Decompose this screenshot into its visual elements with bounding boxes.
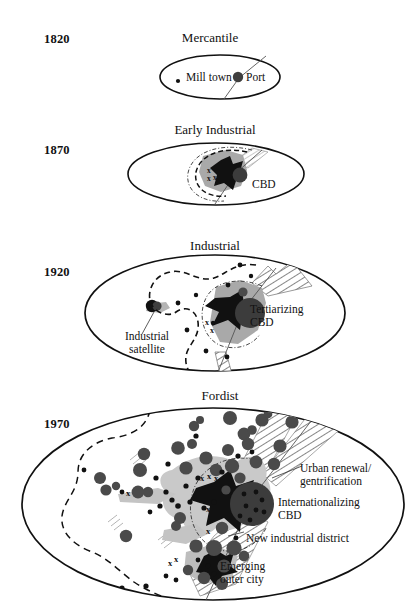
label-industrial-satellite: Industrial satellite <box>110 330 184 355</box>
svg-text:x: x <box>205 318 209 327</box>
label-tertiarizing-cbd-line2: CBD <box>250 316 303 329</box>
diagram-canvas: xx xx <box>0 0 414 615</box>
svg-text:x: x <box>213 164 217 173</box>
port-dot <box>233 72 243 82</box>
panel-1870-map: xx xx <box>128 143 304 205</box>
mill-town-dot <box>176 79 180 83</box>
label-new-industrial-district: New industrial district <box>246 532 349 545</box>
label-tertiarizing-cbd-line1: Tertiarizing <box>250 303 303 316</box>
label-emerging-outer-city-line2: outer city <box>220 573 265 586</box>
label-cbd-1870: CBD <box>252 178 276 191</box>
label-internationalizing-cbd-line1: Internationalizing <box>278 496 360 509</box>
secondary-node-1920 <box>238 287 247 296</box>
figure-root: 1820 1870 1920 1970 Mercantile Early Ind… <box>0 0 414 615</box>
svg-text:x: x <box>207 174 211 183</box>
label-mill-town: Mill town <box>186 71 232 84</box>
label-emerging-outer-city: Emerging outer city <box>220 560 265 585</box>
label-tertiarizing-cbd: Tertiarizing CBD <box>250 303 303 328</box>
label-emerging-outer-city-line1: Emerging <box>220 560 265 573</box>
cbd-node-1870 <box>233 168 248 183</box>
label-urban-renewal-line1: Urban renewal/ <box>300 462 371 475</box>
label-urban-renewal-line2: gentrification <box>300 475 371 488</box>
svg-text:x: x <box>210 326 214 335</box>
industrial-satellite-node-2 <box>152 301 161 310</box>
label-industrial-satellite-line1: Industrial <box>110 330 184 343</box>
label-internationalizing-cbd: Internationalizing CBD <box>278 496 360 521</box>
label-port: Port <box>246 71 265 84</box>
label-internationalizing-cbd-line2: CBD <box>278 509 360 522</box>
label-urban-renewal: Urban renewal/ gentrification <box>300 462 371 487</box>
panel-1920-map: xx <box>85 255 345 384</box>
label-industrial-satellite-line2: satellite <box>110 343 184 356</box>
svg-text:x: x <box>213 173 217 182</box>
